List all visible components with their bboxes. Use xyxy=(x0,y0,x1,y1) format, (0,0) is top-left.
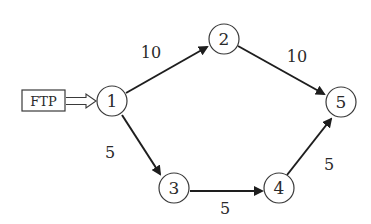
node-1: 1 xyxy=(97,86,127,116)
node-2: 2 xyxy=(209,24,239,54)
edge-weight-1-3: 5 xyxy=(105,143,115,162)
edge-weight-3-4: 5 xyxy=(220,199,230,218)
edge-weight-2-5: 10 xyxy=(287,47,307,66)
edge-2-to-5: 10 xyxy=(238,46,324,94)
node-4: 4 xyxy=(264,173,294,203)
node-3-label: 3 xyxy=(169,178,180,198)
node-1-label: 1 xyxy=(107,91,118,111)
edge-1-to-2: 10 xyxy=(126,43,207,93)
hollow-arrow-icon xyxy=(66,94,96,108)
ftp-label: FTP xyxy=(30,94,57,109)
node-2-label: 2 xyxy=(219,29,230,49)
ftp-source-box: FTP xyxy=(22,90,65,111)
node-3: 3 xyxy=(159,173,189,203)
edge-weight-4-5: 5 xyxy=(324,155,334,174)
edge-weight-1-2: 10 xyxy=(141,43,161,62)
edge-3-to-4: 5 xyxy=(190,191,262,218)
node-5-label: 5 xyxy=(336,92,347,112)
edge-1-to-3: 5 xyxy=(105,115,160,174)
node-5: 5 xyxy=(326,87,356,117)
node-4-label: 4 xyxy=(274,178,285,198)
edge-ftp-to-1 xyxy=(66,94,96,108)
network-diagram: FTP 10 10 5 5 5 1 2 3 4 xyxy=(0,0,371,224)
edge-4-to-5: 5 xyxy=(287,119,334,175)
